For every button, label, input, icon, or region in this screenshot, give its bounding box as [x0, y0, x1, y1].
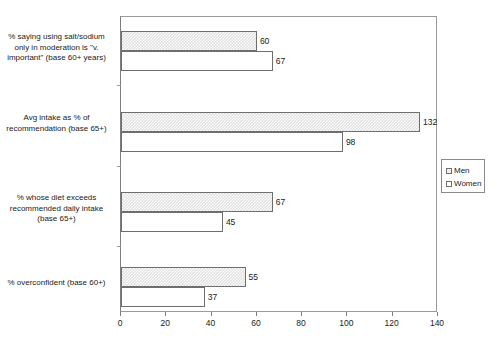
x-tick-label: 140: [430, 318, 444, 328]
bar-men[interactable]: [121, 192, 273, 212]
x-axis: 0 20 40 60 80 100 120 140: [120, 312, 437, 338]
category-label: % overconfident (base 60+): [0, 278, 113, 289]
bar-men[interactable]: [121, 31, 257, 51]
axis-tick: [117, 85, 121, 86]
bar-women[interactable]: [121, 212, 223, 232]
x-tick-label: 60: [251, 318, 260, 328]
bar-value-label: 67: [273, 197, 285, 207]
legend-label: Men: [454, 166, 470, 175]
bar-value-label: 98: [343, 137, 355, 147]
bar-value-label: 132: [420, 117, 437, 127]
bar-value-label: 67: [273, 56, 285, 66]
legend: Men Women: [441, 159, 485, 193]
axis-tick: [301, 312, 302, 316]
x-tick-label: 40: [206, 318, 215, 328]
bar-women[interactable]: [121, 51, 273, 71]
axis-tick: [392, 312, 393, 316]
x-tick-label: 0: [118, 318, 123, 328]
category-label-column: % saying using salt/sodium only in moder…: [0, 16, 115, 312]
axis-tick: [437, 312, 438, 316]
axis-tick: [120, 312, 121, 316]
axis-tick: [117, 246, 121, 247]
bar-women[interactable]: [121, 287, 205, 307]
x-tick-label: 20: [161, 318, 170, 328]
plot-area: 60 67 132 98 67: [120, 16, 437, 312]
legend-swatch-icon: [446, 168, 452, 174]
bar-women[interactable]: [121, 132, 343, 152]
axis-tick: [256, 312, 257, 316]
bar-value-label: 60: [257, 36, 269, 46]
x-tick-label: 120: [385, 318, 399, 328]
bar-men[interactable]: [121, 267, 246, 287]
bar-value-label: 55: [246, 272, 258, 282]
legend-item-women[interactable]: Women: [446, 177, 484, 190]
category-label: % whose diet exceeds recommended daily i…: [0, 193, 113, 225]
x-tick-label: 80: [296, 318, 305, 328]
legend-swatch-icon: [446, 181, 452, 187]
bar-value-label: 45: [223, 217, 235, 227]
axis-tick: [211, 312, 212, 316]
axis-tick: [346, 312, 347, 316]
legend-item-men[interactable]: Men: [446, 164, 484, 177]
bar-chart: % saying using salt/sodium only in moder…: [0, 0, 503, 341]
axis-tick: [165, 312, 166, 316]
bar-value-label: 37: [205, 292, 217, 302]
category-label: % saying using salt/sodium only in moder…: [0, 32, 113, 64]
legend-label: Women: [454, 179, 481, 188]
axis-tick: [117, 166, 121, 167]
bar-men[interactable]: [121, 112, 420, 132]
x-tick-label: 100: [339, 318, 353, 328]
category-label: Avg intake as % of recommendation (base …: [0, 113, 113, 134]
